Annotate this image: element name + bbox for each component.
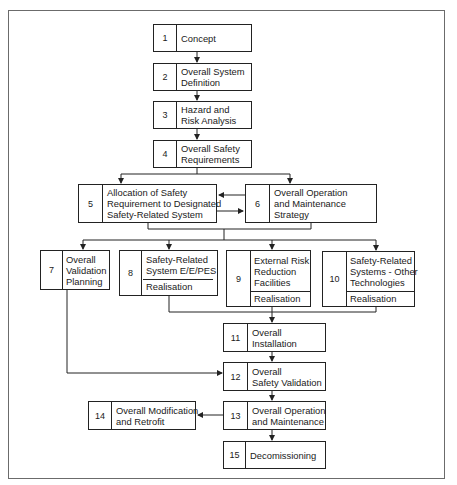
step-5-allocation-of-safety-requirement: 5 Allocation of SafetyRequirement to Des… — [78, 184, 217, 223]
step-number: 15 — [224, 442, 246, 468]
step-label: External RiskReductionFacilities — [250, 251, 308, 291]
step-label: OverallValidationPlanning — [62, 251, 107, 289]
step-label: Safety-RelatedSystems - OtherTechnologie… — [346, 252, 414, 291]
step-number: 10 — [323, 252, 347, 306]
step-number: 9 — [227, 251, 251, 306]
step-label: Overall SystemDefinition — [176, 64, 249, 90]
step-sublabel: Realisation — [346, 290, 414, 306]
step-label: OverallInstallation — [247, 324, 323, 351]
step-number: 14 — [89, 402, 112, 429]
step-3-hazard-risk-analysis: 3 Hazard andRisk Analysis — [153, 101, 252, 129]
step-4-overall-safety-requirements: 4 Overall SafetyRequirements — [153, 140, 252, 168]
step-number: 4 — [154, 141, 177, 167]
step-14-overall-modification-retrofit: 14 Overall Modificationand Retrofit — [88, 401, 196, 430]
step-13-overall-operation-maintenance: 13 Overall Operationand Maintenance — [223, 401, 326, 430]
step-label: Concept — [176, 25, 249, 51]
step-10-other-technologies: 10 Safety-RelatedSystems - OtherTechnolo… — [322, 251, 415, 307]
step-11-overall-installation: 11 OverallInstallation — [223, 323, 326, 352]
step-12-overall-safety-validation: 12 OverallSafety Validation — [223, 362, 326, 391]
step-label: Allocation of SafetyRequirement to Desig… — [102, 185, 214, 222]
step-number: 5 — [79, 185, 103, 222]
step-8-safety-related-system-eepes: 8 Safety-RelatedSystem E/E/PES Realisati… — [119, 250, 218, 296]
step-7-overall-validation-planning: 7 OverallValidationPlanning — [40, 250, 110, 290]
step-label: Safety-RelatedSystem E/E/PES — [141, 251, 215, 279]
step-sublabel: Realisation — [141, 278, 217, 295]
step-number: 7 — [41, 251, 63, 289]
step-label: Decomissioning — [245, 442, 323, 468]
step-15-decomissioning: 15 Decomissioning — [223, 441, 326, 469]
step-9-external-risk-reduction: 9 External RiskReductionFacilities Reali… — [226, 250, 311, 307]
step-sublabel: Realisation — [250, 290, 310, 306]
step-number: 11 — [224, 324, 248, 351]
step-number: 13 — [224, 402, 248, 429]
step-label: Hazard andRisk Analysis — [176, 102, 249, 128]
step-label: Overall SafetyRequirements — [176, 141, 249, 167]
step-number: 8 — [120, 251, 142, 295]
step-1-concept: 1 Concept — [153, 24, 252, 52]
step-number: 2 — [154, 64, 177, 90]
step-label: Overall Operationand Maintenance — [247, 402, 323, 429]
step-number: 1 — [154, 25, 177, 51]
step-label: Overall Modificationand Retrofit — [111, 402, 193, 429]
step-2-overall-system-definition: 2 Overall SystemDefinition — [153, 63, 252, 91]
step-label: OverallSafety Validation — [247, 363, 323, 390]
step-label: Overall Operationand MaintenanceStrategy — [269, 185, 374, 222]
step-number: 6 — [246, 185, 270, 222]
step-number: 12 — [224, 363, 248, 390]
step-number: 3 — [154, 102, 177, 128]
step-6-operation-maintenance-strategy: 6 Overall Operationand MaintenanceStrate… — [245, 184, 377, 223]
